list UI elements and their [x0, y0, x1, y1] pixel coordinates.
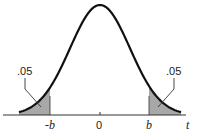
t-distribution-chart: .05 .05 -b 0 b t [0, 0, 202, 139]
tick-label-zero: 0 [96, 119, 102, 131]
chart-svg: .05 .05 -b 0 b t [0, 0, 202, 139]
axis-label-t: t [186, 118, 190, 132]
right-tail-area-label: .05 [166, 65, 181, 77]
left-tail-area-label: .05 [17, 65, 32, 77]
density-curve [19, 5, 181, 112]
tick-label-b: b [146, 118, 152, 132]
tick-label-neg-b: -b [45, 118, 55, 132]
